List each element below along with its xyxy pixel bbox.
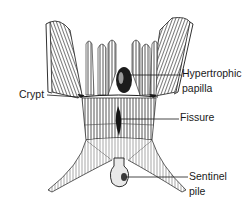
label-fissure-text: Fissure: [180, 111, 214, 123]
label-papilla-text: papilla: [182, 82, 242, 94]
label-pile-text: pile: [189, 185, 227, 197]
label-hypertrophic-text: Hypertrophic: [182, 67, 242, 79]
hypertrophic-papilla: [116, 67, 132, 93]
label-sentinel-pile: Sentinel pile: [189, 170, 227, 197]
left-rectal-wall: [46, 21, 82, 98]
label-fissure: Fissure: [180, 111, 214, 123]
label-hypertrophic-papilla: Hypertrophic papilla: [182, 67, 242, 94]
sentinel-pile: [110, 158, 128, 187]
label-sentinel-text: Sentinel: [189, 170, 227, 182]
label-crypt-text: Crypt: [19, 88, 44, 100]
label-crypt: Crypt: [19, 88, 44, 100]
